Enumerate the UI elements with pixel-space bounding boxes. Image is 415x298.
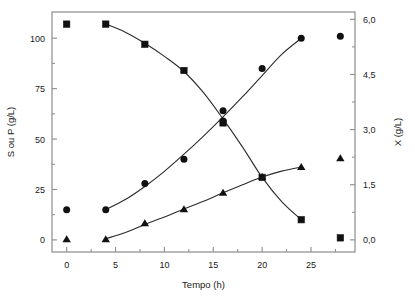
- x-tick-label: 10: [159, 260, 169, 270]
- series-point-p: [102, 206, 109, 213]
- x-tick-label: 15: [208, 260, 218, 270]
- series-point-p: [180, 156, 187, 163]
- series-point-s: [337, 235, 343, 241]
- plot-frame: [52, 12, 355, 252]
- series-point-p: [220, 117, 227, 124]
- series-point-x: [102, 235, 110, 242]
- y-tick-label: 100: [30, 34, 45, 44]
- y2-tick-label: 1,5: [363, 180, 376, 190]
- series-point-p: [220, 107, 227, 114]
- series-point-x: [180, 205, 188, 212]
- series-fit-line-s: [106, 24, 301, 220]
- scatter-plot: 051015202502550751000,01,53,04,56,0Tempo…: [0, 0, 415, 298]
- series-point-s: [63, 21, 69, 27]
- chart-figure: 051015202502550751000,01,53,04,56,0Tempo…: [0, 0, 415, 298]
- series-point-p: [337, 33, 344, 40]
- series-point-p: [141, 180, 148, 187]
- series-point-p: [298, 35, 305, 42]
- y-tick-label: 50: [35, 135, 45, 145]
- y2-axis-title: X (g/L): [392, 118, 403, 147]
- y2-tick-label: 3,0: [363, 125, 376, 135]
- series-point-s: [298, 217, 304, 223]
- series-point-s: [142, 41, 148, 47]
- x-tick-label: 0: [64, 260, 69, 270]
- series-fit-line-p: [106, 38, 301, 209]
- series-fit-line-x: [106, 167, 301, 239]
- x-axis-title: Tempo (h): [182, 279, 225, 290]
- series-point-x: [62, 235, 70, 242]
- series-point-s: [181, 67, 187, 73]
- x-tick-label: 25: [306, 260, 316, 270]
- y-tick-label: 0: [40, 235, 45, 245]
- y2-tick-label: 0,0: [363, 235, 376, 245]
- series-point-s: [103, 21, 109, 27]
- series-point-x: [219, 189, 227, 196]
- series-point-p: [63, 206, 70, 213]
- x-tick-label: 20: [257, 260, 267, 270]
- series-point-p: [259, 65, 266, 72]
- y-axis-title: S ou P (g/L): [5, 107, 16, 158]
- y2-tick-label: 6,0: [363, 15, 376, 25]
- y-tick-label: 75: [35, 84, 45, 94]
- series-point-x: [297, 163, 305, 170]
- x-tick-label: 5: [113, 260, 118, 270]
- y-tick-label: 25: [35, 185, 45, 195]
- y2-tick-label: 4,5: [363, 70, 376, 80]
- series-point-x: [336, 154, 344, 161]
